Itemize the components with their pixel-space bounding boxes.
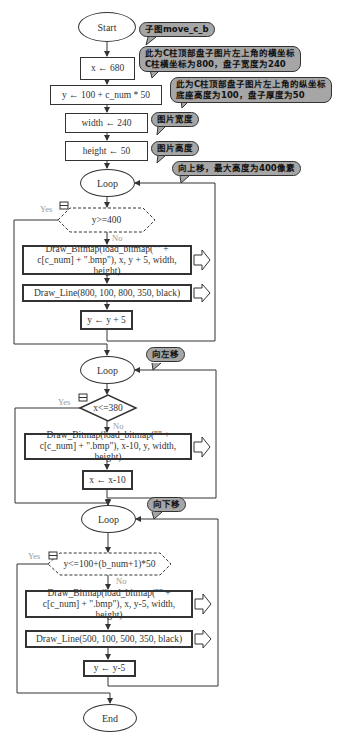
comment-subgraph-text: 子图move_c_b <box>145 24 209 34</box>
comment-width: 图片宽度 <box>151 112 199 127</box>
assign-width-label: width ← 240 <box>81 118 131 129</box>
draw-bitmap-2-label: Draw_Bitmap(load_bitmap("" + c[c_num] + … <box>30 430 186 463</box>
decrement-x: x ← x-10 <box>82 470 133 490</box>
comment-x: 此为C柱顶部盘子图片左上角的横坐标C柱横坐标为800，盘子宽度为240 <box>139 46 301 72</box>
comment-y: 此为C柱顶部盘子图片左上角的纵坐标底座高度为100，盘子厚度为50 <box>170 77 332 103</box>
draw-bitmap-3: Draw_Bitmap(load_bitmap("" + c[c_num] + … <box>25 590 193 618</box>
comment-x-line1: 此为C柱顶部盘子图片左上角的横坐标 <box>145 48 295 59</box>
no-label-3: No <box>116 576 126 586</box>
assign-y: y ← 100 + c_num * 50 <box>50 85 162 105</box>
comment-width-text: 图片宽度 <box>157 114 193 124</box>
comment-loop-1: 向上移，最大高度为400像素 <box>172 161 301 176</box>
comment-loop-3: 向下移 <box>147 497 186 512</box>
condition-3-label: y<=100+(b_num+1)*50 <box>63 559 155 569</box>
condition-2-label: x<=380 <box>93 403 123 413</box>
comment-subgraph: 子图move_c_b <box>139 22 215 37</box>
draw-bitmap-3-label: Draw_Bitmap(load_bitmap("" + c[c_num] + … <box>31 588 187 621</box>
decrement-y: y ← y-5 <box>83 660 136 677</box>
assign-y-label: y ← 100 + c_num * 50 <box>62 90 150 101</box>
assign-height-label: height ← 50 <box>83 146 131 157</box>
end-label: End <box>102 713 118 724</box>
increment-y-label: y ← y + 5 <box>87 315 126 326</box>
assign-x-label: x ← 680 <box>91 63 124 74</box>
yes-label-2: Yes <box>58 397 70 407</box>
condition-3: y<=100+(b_num+1)*50 <box>48 553 171 575</box>
decrement-y-label: y ← y-5 <box>94 663 126 674</box>
loop-2-label: Loop <box>97 365 118 376</box>
comment-y-line2: 底座高度为100，盘子厚度为50 <box>176 90 326 101</box>
assign-height: height ← 50 <box>65 141 148 161</box>
comment-loop-1-text: 向上移，最大高度为400像素 <box>178 163 295 173</box>
draw-bitmap-1: Draw_Bitmap(load_bitmap("" + c[c_num] + … <box>22 245 192 275</box>
draw-line-3-label: Draw_Line(500, 100, 500, 350, black) <box>36 634 182 645</box>
assign-width: width ← 240 <box>65 113 148 133</box>
draw-line-1-label: Draw_Line(800, 100, 800, 350, black) <box>34 288 180 299</box>
draw-line-1: Draw_Line(800, 100, 800, 350, black) <box>22 284 192 302</box>
comment-loop-2-text: 向左移 <box>152 349 179 359</box>
yes-label-3: Yes <box>28 551 40 561</box>
loop-1-label: Loop <box>97 178 118 189</box>
loop-1: Loop <box>80 169 135 197</box>
start-node: Start <box>78 12 136 42</box>
loop-3: Loop <box>81 505 136 533</box>
comment-height-text: 图片高度 <box>157 143 193 153</box>
condition-1-label: y>=400 <box>92 215 122 225</box>
loop-3-label: Loop <box>98 514 119 525</box>
comment-x-line2: C柱横坐标为800，盘子宽度为240 <box>145 59 295 70</box>
draw-bitmap-2: Draw_Bitmap(load_bitmap("" + c[c_num] + … <box>24 433 192 460</box>
comment-loop-3-text: 向下移 <box>153 499 180 509</box>
draw-line-3: Draw_Line(500, 100, 500, 350, black) <box>25 630 193 648</box>
comment-y-line1: 此为C柱顶部盘子图片左上角的纵坐标 <box>176 79 326 90</box>
loop-2: Loop <box>80 356 135 384</box>
decrement-x-label: x ← x-10 <box>89 475 125 486</box>
comment-loop-2: 向左移 <box>146 347 185 362</box>
start-label: Start <box>98 22 117 33</box>
condition-1: y>=400 <box>58 208 155 232</box>
increment-y: y ← y + 5 <box>80 310 133 330</box>
draw-bitmap-1-label: Draw_Bitmap(load_bitmap("" + c[c_num] + … <box>28 244 186 277</box>
comment-height: 图片高度 <box>151 141 199 156</box>
end-node: End <box>83 704 137 732</box>
assign-x: x ← 680 <box>80 57 135 80</box>
condition-2: x<=380 <box>80 395 136 421</box>
yes-label-1: Yes <box>40 204 52 214</box>
no-label-1: No <box>112 233 122 243</box>
